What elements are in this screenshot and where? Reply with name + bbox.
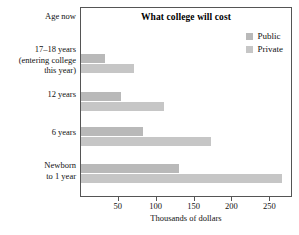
- bars-container: [81, 8, 291, 196]
- bar-public-0: [81, 54, 105, 63]
- category-label-newborn: Newborn to 1 year: [0, 160, 76, 181]
- plot-area: What college will cost Public Private: [80, 7, 292, 197]
- category-label-6-years: 6 years: [0, 127, 76, 138]
- bar-private-1: [81, 102, 164, 111]
- bar-private-2: [81, 137, 211, 146]
- x-tick-label-100: 100: [149, 201, 162, 211]
- bar-private-3: [81, 174, 282, 183]
- x-tick-label-150: 150: [187, 201, 200, 211]
- x-tick-label-50: 50: [114, 201, 123, 211]
- bar-public-1: [81, 92, 121, 101]
- category-axis-header: Age now: [0, 11, 76, 22]
- bar-private-0: [81, 64, 134, 73]
- bar-public-3: [81, 164, 179, 173]
- x-tick-label-250: 250: [263, 201, 276, 211]
- x-tick-label-200: 200: [225, 201, 238, 211]
- bar-public-2: [81, 127, 143, 136]
- category-label-17-18-years: 17–18 years (entering college this year): [0, 44, 76, 76]
- chart-figure: Age now 17–18 years (entering college th…: [0, 0, 299, 235]
- category-label-12-years: 12 years: [0, 89, 76, 100]
- x-axis-title: Thousands of dollars: [80, 213, 292, 223]
